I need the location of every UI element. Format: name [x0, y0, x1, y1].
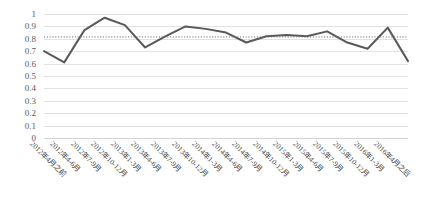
y-axis-tick-label: 0.4: [25, 84, 36, 93]
y-axis-tick-label: 0.6: [25, 59, 36, 68]
y-axis-tick-label: 1: [32, 10, 37, 19]
y-axis-tick-label: 0.3: [25, 96, 36, 105]
y-axis-tick-label: 0.7: [25, 47, 36, 56]
y-axis-tick-label: 0.8: [25, 34, 36, 43]
y-axis-tick-label: 0.9: [25, 22, 36, 31]
line-chart: 00.10.20.30.40.50.60.70.80.91 2012年4月之前2…: [0, 0, 422, 204]
y-axis-tick-label: 0.2: [25, 109, 36, 118]
data-series-line: [44, 18, 408, 63]
y-axis-tick-label: 0.1: [25, 121, 36, 130]
y-axis: 00.10.20.30.40.50.60.70.80.91: [0, 14, 40, 138]
series-layer: [44, 14, 408, 138]
gridline: [44, 138, 408, 139]
x-axis: 2012年4月之前2012年4-6月2012年7-9月2012年10-12月20…: [44, 140, 408, 202]
plot-area: [44, 14, 408, 138]
y-axis-tick-label: 0.5: [25, 72, 36, 81]
